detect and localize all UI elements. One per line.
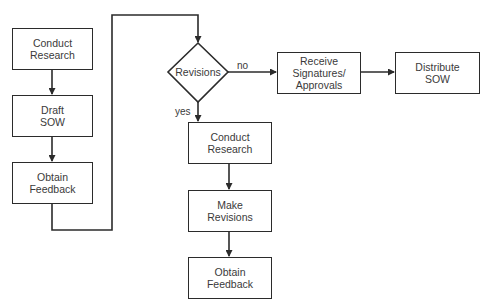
box-obtain-feedback-2: Obtain Feedback [188, 257, 272, 299]
box-label: Draft SOW [40, 104, 65, 128]
box-label: Conduct Research [208, 131, 253, 155]
edge-label-no: no [237, 60, 248, 71]
box-label: Make Revisions [207, 199, 253, 223]
box-conduct-research-1: Conduct Research [12, 28, 93, 70]
box-label: Obtain Feedback [29, 171, 75, 195]
box-label: Obtain Feedback [207, 266, 253, 290]
box-draft-sow: Draft SOW [12, 95, 93, 137]
box-distribute-sow: Distribute SOW [395, 52, 480, 94]
box-label: Receive Signatures/ Approvals [292, 55, 345, 91]
box-label: Conduct Research [30, 37, 75, 61]
box-conduct-research-2: Conduct Research [188, 122, 272, 164]
box-make-revisions: Make Revisions [188, 190, 272, 232]
box-label: Distribute SOW [415, 61, 459, 85]
edge-label-yes: yes [175, 106, 191, 117]
box-receive-signatures: Receive Signatures/ Approvals [277, 52, 361, 94]
decision-label: Revisions [168, 66, 228, 78]
box-obtain-feedback-1: Obtain Feedback [12, 162, 93, 204]
